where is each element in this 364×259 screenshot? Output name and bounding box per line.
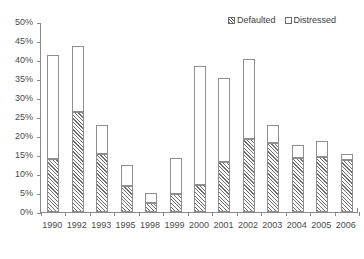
x-axis-tick-label: 1995 xyxy=(113,220,137,230)
bar-2004 xyxy=(292,145,304,212)
legend-label-distressed: Distressed xyxy=(294,15,337,25)
x-axis-tick-label: 2000 xyxy=(187,220,211,230)
y-axis-tick xyxy=(37,118,41,119)
bar-segment-distressed xyxy=(316,141,328,157)
bar-1993 xyxy=(96,125,108,212)
y-axis-tick-label: 40% xyxy=(0,56,33,65)
bar-segment-distressed xyxy=(121,165,133,186)
bar-2000 xyxy=(194,66,206,212)
y-axis-tick xyxy=(37,99,41,100)
y-axis-tick-label: 35% xyxy=(0,75,33,84)
legend-item-distressed: Distressed xyxy=(285,15,337,25)
empty-swatch-icon xyxy=(285,17,292,24)
bar-segment-defaulted xyxy=(341,160,353,212)
hatched-swatch-icon xyxy=(228,17,235,24)
bar-chart: 0%5%10%15%20%25%30%35%40%45%50% 19901992… xyxy=(0,0,364,259)
bar-segment-distressed xyxy=(194,66,206,185)
y-axis-tick-label: 45% xyxy=(0,37,33,46)
x-axis-tick-label: 2005 xyxy=(309,220,333,230)
x-axis-tick-label: 1993 xyxy=(89,220,113,230)
bar-1999 xyxy=(170,158,182,212)
y-axis-tick xyxy=(37,194,41,195)
y-axis-tick-label: 10% xyxy=(0,170,33,179)
bar-segment-distressed xyxy=(341,154,353,160)
y-axis-tick-label: 15% xyxy=(0,151,33,160)
bar-2006 xyxy=(341,154,353,212)
y-axis-tick xyxy=(37,61,41,62)
bar-segment-defaulted xyxy=(47,159,59,212)
bar-2001 xyxy=(218,78,230,212)
x-axis-tick-label: 1990 xyxy=(40,220,64,230)
bar-segment-defaulted xyxy=(292,158,304,212)
x-axis-tick-label: 1999 xyxy=(162,220,186,230)
x-axis-tick-label: 1992 xyxy=(64,220,88,230)
y-axis-tick-label: 50% xyxy=(0,18,33,27)
bar-segment-distressed xyxy=(243,59,255,138)
x-axis-right-cap xyxy=(357,208,358,212)
bar-1992 xyxy=(72,46,84,212)
plot-area xyxy=(40,23,358,213)
x-axis-tick-label: 2006 xyxy=(334,220,358,230)
y-axis-tick-label: 0% xyxy=(0,208,33,217)
bar-1990 xyxy=(47,55,59,212)
bar-segment-defaulted xyxy=(72,112,84,212)
y-axis-labels: 0%5%10%15%20%25%30%35%40%45%50% xyxy=(0,0,40,213)
x-axis-tick-label: 2004 xyxy=(285,220,309,230)
bar-segment-defaulted xyxy=(96,154,108,212)
bar-segment-distressed xyxy=(47,55,59,160)
bar-segment-distressed xyxy=(96,125,108,154)
y-axis-tick xyxy=(37,175,41,176)
bar-1995 xyxy=(121,165,133,213)
bar-2003 xyxy=(267,125,279,212)
x-axis-labels: 1990199219931995199819992000200120022003… xyxy=(40,216,358,236)
y-axis-tick xyxy=(37,137,41,138)
bar-segment-distressed xyxy=(170,158,182,194)
x-axis-tick-label: 2003 xyxy=(260,220,284,230)
bar-segment-distressed xyxy=(292,145,304,158)
y-axis-tick xyxy=(37,156,41,157)
chart-legend: Defaulted Distressed xyxy=(228,15,336,25)
y-axis-tick-label: 5% xyxy=(0,189,33,198)
bar-segment-distressed xyxy=(72,46,84,112)
bar-segment-defaulted xyxy=(243,139,255,212)
bar-segment-defaulted xyxy=(145,203,157,213)
y-axis-tick xyxy=(37,80,41,81)
bar-segment-defaulted xyxy=(170,194,182,212)
y-axis-tick xyxy=(37,42,41,43)
x-axis-tick-label: 1998 xyxy=(138,220,162,230)
bar-segment-distressed xyxy=(145,193,157,203)
legend-label-defaulted: Defaulted xyxy=(237,15,276,25)
legend-item-defaulted: Defaulted xyxy=(228,15,276,25)
bar-2005 xyxy=(316,141,328,212)
x-axis-tick xyxy=(359,212,360,216)
bar-segment-defaulted xyxy=(194,185,206,212)
bar-segment-defaulted xyxy=(316,157,328,212)
bar-segment-defaulted xyxy=(218,162,230,212)
x-axis-tick-label: 2001 xyxy=(211,220,235,230)
y-axis-tick xyxy=(37,23,41,24)
bar-1998 xyxy=(145,193,157,212)
y-axis-tick-label: 20% xyxy=(0,132,33,141)
y-axis-tick-label: 30% xyxy=(0,94,33,103)
bar-segment-distressed xyxy=(218,78,230,162)
bar-segment-defaulted xyxy=(267,143,279,212)
bar-segment-distressed xyxy=(267,125,279,142)
x-axis-tick-label: 2002 xyxy=(236,220,260,230)
bar-segment-defaulted xyxy=(121,186,133,212)
y-axis-tick-label: 25% xyxy=(0,113,33,122)
bar-2002 xyxy=(243,59,255,212)
